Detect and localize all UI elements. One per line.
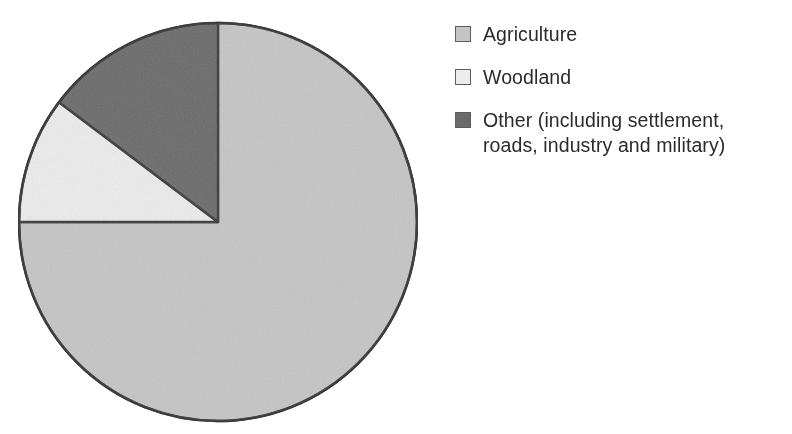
legend-swatch-woodland: [455, 69, 471, 85]
legend-label-woodland: Woodland: [483, 65, 571, 90]
legend-swatch-other: [455, 112, 471, 128]
legend-item-other: Other (including settlement, roads, indu…: [455, 108, 785, 158]
pie-grain-texture: [18, 20, 418, 424]
legend-label-agriculture: Agriculture: [483, 22, 577, 47]
legend-label-other: Other (including settlement, roads, indu…: [483, 108, 725, 158]
legend-swatch-agriculture: [455, 26, 471, 42]
legend-item-agriculture: Agriculture: [455, 22, 785, 47]
pie-chart: [18, 20, 418, 424]
chart-legend: Agriculture Woodland Other (including se…: [455, 22, 785, 158]
legend-item-woodland: Woodland: [455, 65, 785, 90]
chart-page: Agriculture Woodland Other (including se…: [0, 0, 792, 434]
pie-chart-svg: [18, 20, 418, 424]
